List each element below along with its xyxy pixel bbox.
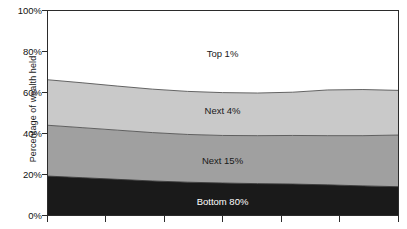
plot-area: Top 1% Next 4% Next 15% Bottom 80% <box>47 10 398 215</box>
x-tick-mark-0 <box>47 216 48 222</box>
y-axis-tick-labels: 100% 80% 60% 40% 20% 0% <box>4 0 42 229</box>
y-tick-label-60: 60% <box>8 88 42 98</box>
y-tick-label-100: 100% <box>8 6 42 16</box>
x-tick-mark-6 <box>398 216 399 222</box>
band-label-top1: Top 1% <box>207 48 239 59</box>
band-label-next15: Next 15% <box>202 155 243 166</box>
y-tick-label-0: 0% <box>8 211 42 221</box>
x-tick-mark-4 <box>281 216 282 222</box>
x-tick-mark-3 <box>222 216 223 222</box>
stacked-area-chart: Percentage of wealth held 100% 80% 60% 4… <box>0 0 407 229</box>
y-tick-label-40: 40% <box>8 129 42 139</box>
x-tick-mark-2 <box>164 216 165 222</box>
axis-line-top <box>47 10 399 11</box>
x-axis-line <box>47 215 399 216</box>
band-label-next4: Next 4% <box>205 105 241 116</box>
axis-line-right <box>398 10 399 216</box>
y-tick-label-20: 20% <box>8 170 42 180</box>
y-tick-label-80: 80% <box>8 47 42 57</box>
x-tick-mark-5 <box>339 216 340 222</box>
band-label-bottom80: Bottom 80% <box>197 196 249 207</box>
x-tick-mark-1 <box>105 216 106 222</box>
y-axis-line <box>47 10 48 216</box>
